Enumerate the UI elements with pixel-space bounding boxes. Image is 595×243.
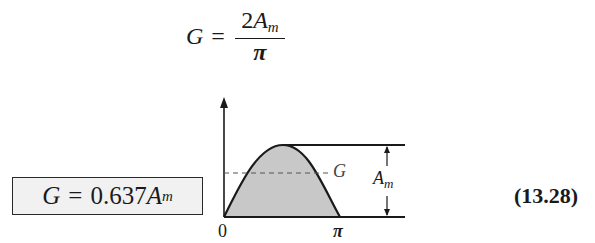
boxed-equals-sign: = bbox=[68, 182, 82, 210]
boxed-variable: A bbox=[147, 182, 162, 210]
boxed-lhs: G bbox=[42, 182, 60, 210]
x-pi-label: π bbox=[333, 221, 343, 242]
equation-number: (13.28) bbox=[514, 183, 578, 209]
boxed-coefficient: 0.637 bbox=[90, 182, 146, 210]
boxed-result-equation: G = 0.637Am bbox=[12, 177, 203, 215]
y-axis-arrow-icon bbox=[220, 97, 228, 108]
amplitude-label: Am bbox=[373, 168, 393, 192]
x-origin-label: 0 bbox=[218, 221, 227, 242]
boxed-subscript: m bbox=[162, 188, 173, 205]
shaded-area bbox=[224, 145, 340, 217]
amplitude-arrowhead-down-icon bbox=[384, 209, 390, 216]
average-level-label: G bbox=[333, 161, 346, 182]
amplitude-arrowhead-up-icon bbox=[384, 146, 390, 153]
